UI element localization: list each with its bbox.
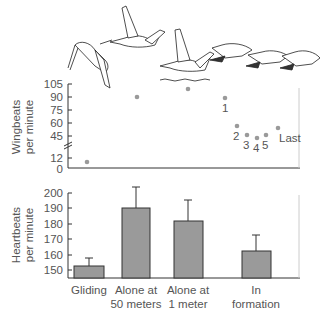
wingbeats-ylabel: Wingbeats per minute: [10, 92, 36, 162]
point-gliding: [85, 160, 90, 165]
ytick-105: 105: [33, 78, 63, 90]
point-label-1: 1: [222, 102, 228, 114]
category-alone-1m: Alone at 1 meter: [153, 283, 223, 311]
bar-alone-1m: [174, 221, 203, 278]
category-formation: In formation: [221, 283, 291, 311]
pelican-formation-icon: [210, 44, 320, 70]
point-label-5: 5: [262, 139, 268, 151]
pelican-alone-1m-icon: [160, 29, 214, 81]
pelican-alone-50m-icon: [100, 6, 165, 47]
ytick-180: 180: [33, 218, 63, 230]
point-label-2: 2: [233, 130, 239, 142]
point-formation-5: [264, 133, 269, 138]
ytick-160: 160: [33, 249, 63, 261]
bar-alone-50m: [122, 208, 150, 278]
ytick-45: 45: [33, 130, 63, 142]
ytick-0: 0: [33, 163, 63, 175]
point-formation-2: [235, 124, 240, 129]
ytick-190: 190: [33, 202, 63, 214]
ytick-170: 170: [33, 233, 63, 245]
ytick-200: 200: [33, 187, 63, 199]
point-formation-3: [245, 133, 250, 138]
point-formation-4: [255, 136, 260, 141]
ytick-75: 75: [33, 104, 63, 116]
point-label-last: Last: [279, 132, 301, 144]
point-alone-50m: [135, 95, 140, 100]
heartbeats-ylabel: Heartbeats per minute: [10, 200, 36, 270]
bar-gliding: [74, 266, 104, 278]
point-formation-1: [223, 96, 228, 101]
pelican-illustration: [0, 0, 329, 90]
ytick-60: 60: [33, 117, 63, 129]
point-label-3: 3: [243, 139, 249, 151]
ytick-150: 150: [33, 264, 63, 276]
point-label-4: 4: [253, 142, 259, 154]
ytick-90: 90: [33, 91, 63, 103]
bar-formation: [242, 251, 271, 278]
pelican-gliding-icon: [68, 42, 110, 88]
point-formation-last: [276, 126, 281, 131]
